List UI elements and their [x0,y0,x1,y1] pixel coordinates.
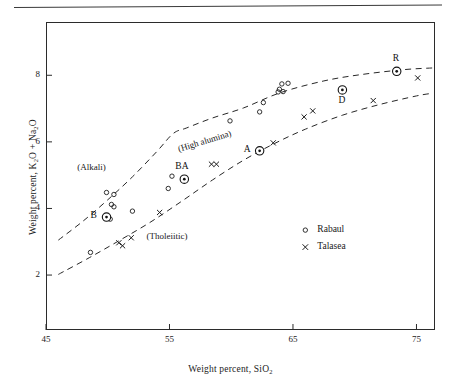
x-axis-label-text: Weight percent, SiO [188,364,269,374]
highlighted-point-R [393,67,401,75]
figure-scatter-plot: Weight percent, SiO2 Weight percent, K2O… [0,0,461,387]
x-axis-label-subscript: 2 [269,368,272,375]
data-point-talasea [157,210,162,215]
data-point-rabaul [130,209,134,213]
data-point-talasea [371,98,376,103]
region-label: (Tholeiitic) [146,231,187,241]
highlighted-point-B [102,213,110,221]
y-axis-label-subscript-2: 2 [32,126,39,129]
boundary-curve-high-alumina-tholeiitic-boundary [58,93,432,274]
region-label: (Alkali) [77,162,106,172]
data-point-rabaul [276,90,280,94]
data-point-rabaul [286,81,290,85]
point-label-B: B [91,210,97,220]
data-point-talasea [310,108,315,113]
data-point-rabaul [261,100,265,104]
y-tick-label: 8 [22,69,40,79]
data-point-rabaul [257,110,261,114]
point-label-A: A [244,144,251,154]
y-axis-label: Weight percent, K2O + Na2O [28,52,38,302]
y-tick-label: 4 [22,202,40,212]
data-point-rabaul [112,192,116,196]
x-tick-label: 45 [34,334,58,344]
data-point-talasea [301,114,306,119]
data-point-rabaul [104,190,108,194]
boundary-curves-layer [58,68,432,274]
data-point-rabaul [228,119,232,123]
highlighted-point-D [338,86,346,94]
y-tick-label: 6 [22,136,40,146]
y-tick-label: 2 [22,269,40,279]
center-dot [258,150,261,153]
data-point-talasea [129,235,134,240]
data-point-talasea [415,75,420,80]
center-dot [105,216,108,219]
point-label-BA: BA [175,161,188,171]
legend-label-talasea: Talasea [317,241,345,251]
legend-markers-layer [303,228,309,250]
point-label-R: R [393,53,399,63]
legend-label-rabaul: Rabaul [317,224,344,234]
y-axis-label-subscript-1: 2 [32,159,39,162]
highlighted-point-BA [180,175,188,183]
axis-ticks-layer [46,75,416,330]
boundary-curve-alkali-high-alumina-boundary [58,68,432,240]
x-axis-label: Weight percent, SiO2 [0,364,461,374]
highlighted-point-A [255,147,263,155]
data-point-rabaul [170,174,174,178]
data-point-rabaul [166,186,170,190]
data-point-talasea [116,240,121,245]
center-dot [341,89,344,92]
x-tick-label: 75 [404,334,428,344]
x-tick-label: 55 [157,334,181,344]
x-tick-label: 65 [281,334,305,344]
data-points-layer [88,67,420,255]
center-dot [395,70,398,73]
data-point-rabaul [280,82,284,86]
y-axis-label-text-1: Weight percent, K [28,162,38,235]
data-point-rabaul [88,250,92,254]
legend-marker-talasea [303,244,309,250]
data-point-talasea [214,162,219,167]
point-label-D: D [338,95,345,105]
data-point-talasea [209,162,214,167]
legend-marker-rabaul [303,228,307,232]
data-point-talasea [120,243,125,248]
center-dot [183,178,186,181]
